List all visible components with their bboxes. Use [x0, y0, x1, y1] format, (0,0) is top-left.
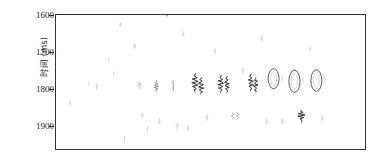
y-tick-mark-1700	[49, 52, 54, 53]
plot-area	[55, 14, 366, 150]
y-axis-tick-labels: 1600 1700 1800 1900	[26, 0, 54, 165]
y-tick-mark-1800	[49, 89, 54, 90]
seismic-trace-figure: 时间 (ms) 1600 1700 1800 1900	[0, 0, 382, 165]
seismic-traces	[56, 15, 365, 149]
y-tick-mark-1900	[49, 126, 54, 127]
y-tick-mark-1600	[49, 15, 54, 16]
